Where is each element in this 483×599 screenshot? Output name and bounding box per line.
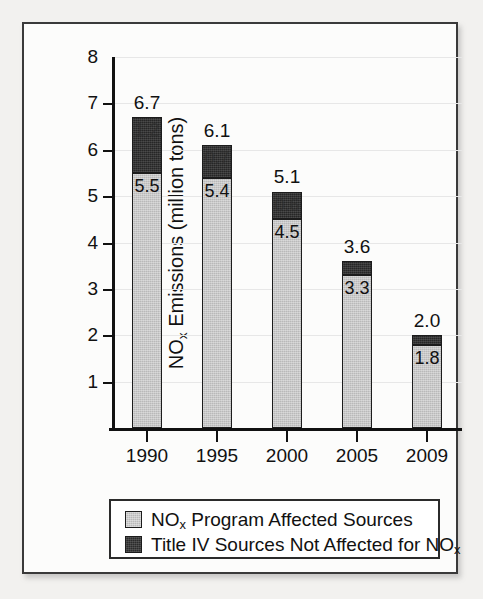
bar[interactable]: 4.50.6 xyxy=(272,192,302,429)
legend-swatch xyxy=(125,536,142,553)
y-axis-label: 3 xyxy=(68,278,98,300)
legend-swatch xyxy=(125,511,142,528)
y-axis-label: 5 xyxy=(68,185,98,207)
x-axis-label: 2000 xyxy=(252,445,322,467)
bar-segment-value-label: 5.5 xyxy=(134,174,159,195)
legend-label-pre: NO xyxy=(151,509,180,530)
x-axis-label: 1990 xyxy=(112,445,182,467)
bar-total-label: 6.7 xyxy=(112,92,182,114)
y-axis-label: 6 xyxy=(68,139,98,161)
bar-total-label: 6.1 xyxy=(182,120,252,142)
y-axis-label: 8 xyxy=(68,46,98,68)
y-axis-tick xyxy=(103,382,112,384)
y-axis-label: 4 xyxy=(68,232,98,254)
y-axis-tick xyxy=(103,243,112,245)
legend-label-subscript: x xyxy=(454,542,460,557)
bar-segment-value-label: 1.2 xyxy=(134,118,159,139)
legend-label-pre: Title IV Sources Not Affected for NO xyxy=(151,534,454,555)
bar[interactable]: 3.3 xyxy=(342,261,372,428)
bar-segment-title-iv-not-affected[interactable] xyxy=(412,335,442,344)
bar-segment-program-affected[interactable]: 1.8 xyxy=(412,345,442,428)
bar-segment-value-label: 4.5 xyxy=(274,220,299,241)
x-axis-label: 2009 xyxy=(392,445,462,467)
bar-segment-title-iv-not-affected[interactable] xyxy=(342,261,372,275)
y-axis-title-post: Emissions (million tons) xyxy=(165,116,187,332)
bar-segment-title-iv-not-affected[interactable]: 0.7 xyxy=(202,145,232,177)
figure-card: NOx Emissions (million tons) 12345678 5.… xyxy=(22,22,458,574)
bar-segment-program-affected[interactable]: 5.5 xyxy=(132,173,162,428)
bar-segment-program-affected[interactable]: 4.5 xyxy=(272,219,302,428)
bar-segment-value-label: 0.7 xyxy=(204,146,229,167)
gridline xyxy=(112,150,462,151)
y-axis-title-pre: NO xyxy=(165,339,187,369)
x-axis-tick xyxy=(146,431,148,442)
x-axis-label: 1995 xyxy=(182,445,252,467)
legend-item[interactable]: NOx Program Affected Sources xyxy=(125,507,438,532)
plot-area: NOx Emissions (million tons) 12345678 5.… xyxy=(112,57,462,428)
bar-segment-value-label: 0.6 xyxy=(274,193,299,214)
bar-segment-title-iv-not-affected[interactable]: 0.6 xyxy=(272,192,302,220)
bar-segment-value-label: 5.4 xyxy=(204,179,229,200)
y-axis-label: 7 xyxy=(68,92,98,114)
legend-label-post: Program Affected Sources xyxy=(186,509,413,530)
x-axis-tick xyxy=(216,431,218,442)
y-axis-tick xyxy=(103,103,112,105)
legend-label: Title IV Sources Not Affected for NOx xyxy=(151,534,461,556)
bar-total-label: 3.6 xyxy=(322,236,392,258)
x-axis-tick xyxy=(286,431,288,442)
x-axis-tick xyxy=(426,431,428,442)
bar-total-label: 5.1 xyxy=(252,166,322,188)
bar[interactable]: 1.8 xyxy=(412,335,442,428)
legend-label-subscript: x xyxy=(180,517,186,532)
legend-label: NOx Program Affected Sources xyxy=(151,509,413,531)
bar[interactable]: 5.40.7 xyxy=(202,145,232,428)
bar-segment-program-affected[interactable]: 5.4 xyxy=(202,178,232,428)
legend-item[interactable]: Title IV Sources Not Affected for NOx xyxy=(125,532,438,557)
legend: NOx Program Affected SourcesTitle IV Sou… xyxy=(109,499,440,559)
y-axis-tick xyxy=(103,335,112,337)
y-axis-label: 2 xyxy=(68,324,98,346)
x-axis-tick xyxy=(356,431,358,442)
bar-segment-program-affected[interactable]: 3.3 xyxy=(342,275,372,428)
y-axis-label: 1 xyxy=(68,371,98,393)
y-axis-tick xyxy=(103,289,112,291)
bar-total-label: 2.0 xyxy=(392,310,462,332)
y-axis-tick xyxy=(103,196,112,198)
bar-segment-title-iv-not-affected[interactable]: 1.2 xyxy=(132,117,162,173)
bar[interactable]: 5.51.2 xyxy=(132,117,162,428)
x-axis-label: 2005 xyxy=(322,445,392,467)
y-axis-tick xyxy=(103,150,112,152)
bar-segment-value-label: 3.3 xyxy=(344,276,369,297)
bar-segment-value-label: 1.8 xyxy=(414,346,439,367)
gridline xyxy=(112,57,462,58)
